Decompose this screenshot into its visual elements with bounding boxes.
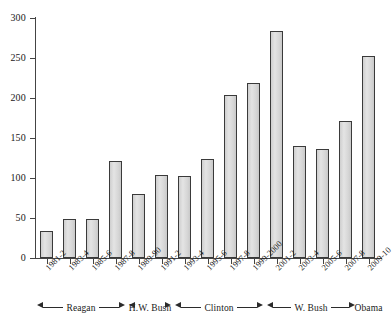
y-axis-tick-label: 300 (10, 13, 26, 23)
president-span: W. Bush (265, 300, 357, 316)
president-span: Clinton (173, 300, 265, 316)
arrow-left-icon (37, 302, 43, 308)
arrow-right-icon (349, 302, 355, 308)
arrow-right-icon (257, 302, 263, 308)
arrow-left-icon (129, 302, 135, 308)
president-span: Obama (357, 300, 380, 316)
president-span: H.W. Bush (127, 300, 173, 316)
bars-container (35, 18, 380, 258)
president-label: Obama (352, 303, 386, 313)
president-label: Reagan (63, 303, 98, 313)
president-label: W. Bush (291, 303, 330, 313)
president-span-row: ReaganH.W. BushClintonW. BushObama (0, 300, 388, 318)
bar (339, 121, 352, 258)
bar (224, 95, 237, 258)
arrow-left-icon (175, 302, 181, 308)
y-axis-tick-label: 200 (10, 93, 26, 103)
y-axis-tick-label: 50 (16, 213, 26, 223)
president-span: Reagan (35, 300, 127, 316)
bar (132, 194, 145, 258)
bar (40, 231, 53, 258)
bar (270, 31, 283, 258)
y-axis-tick-label: 100 (10, 173, 26, 183)
bar (178, 176, 191, 258)
y-axis-tick-label: 150 (10, 133, 26, 143)
bar (316, 149, 329, 258)
arrow-right-icon (119, 302, 125, 308)
y-axis-tick-label: 250 (10, 53, 26, 63)
bar (293, 146, 306, 258)
arrow-right-icon (165, 302, 171, 308)
president-label: Clinton (201, 303, 236, 313)
y-axis-tick (30, 258, 36, 259)
bar (201, 159, 214, 258)
bar (362, 56, 375, 258)
bar (109, 161, 122, 258)
bar (247, 83, 260, 258)
arrow-left-icon (267, 302, 273, 308)
y-axis-tick-label: 0 (21, 253, 26, 263)
